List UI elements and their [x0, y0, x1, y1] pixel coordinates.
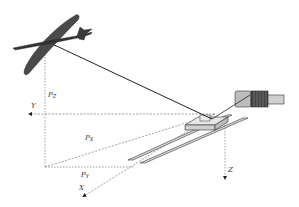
label-px: PX	[84, 134, 94, 142]
label-py: PY	[80, 171, 90, 179]
label-axis-y: Y	[31, 102, 37, 110]
aircraft	[13, 15, 92, 75]
label-axis-z: Z	[227, 166, 233, 174]
diagram-canvas: PZ Y PX PY X Z	[0, 0, 299, 207]
rails	[128, 115, 248, 163]
label-axis-x: X	[78, 184, 85, 192]
label-pz: PZ	[47, 91, 57, 99]
tether-line	[48, 42, 212, 119]
winch	[235, 91, 284, 107]
